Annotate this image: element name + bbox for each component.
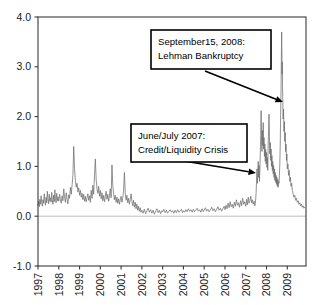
annotation-lehman-line2: Lehman Bankruptcy xyxy=(158,50,244,61)
x-tick-label: 2001 xyxy=(115,273,127,297)
annotation-arrowhead-credit-crisis xyxy=(248,169,256,176)
annotation-credit-crisis: June/July 2007: Credit/Liquidity Crisis xyxy=(131,124,256,175)
x-axis-tick-labels: 1997199819992000200120022003200420052006… xyxy=(32,273,293,297)
x-tick-label: 2004 xyxy=(177,273,189,297)
x-tick-label: 2002 xyxy=(136,273,148,297)
y-tick-label: 0.0 xyxy=(16,210,31,222)
x-tick-label: 2007 xyxy=(240,273,252,297)
annotation-credit-crisis-line2: Credit/Liquidity Crisis xyxy=(138,144,228,155)
annotation-credit-crisis-line1: June/July 2007: xyxy=(138,130,205,141)
x-tick-label: 2000 xyxy=(94,273,106,297)
y-tick-label: 2.0 xyxy=(16,110,31,122)
x-tick-label: 2009 xyxy=(281,273,293,297)
x-tick-label: 2003 xyxy=(156,273,168,297)
chart-container: 4.03.02.01.00.0-1.0 19971998199920002001… xyxy=(0,0,317,305)
annotation-lehman-line1: September15, 2008: xyxy=(158,36,245,47)
y-axis-tick-labels: 4.03.02.01.00.0-1.0 xyxy=(13,11,31,272)
y-tick-label: -1.0 xyxy=(13,260,31,272)
y-tick-label: 3.0 xyxy=(16,60,31,72)
x-tick-label: 2006 xyxy=(219,273,231,297)
x-tick-label: 1999 xyxy=(73,273,85,297)
annotation-arrow-lehman xyxy=(205,71,276,99)
annotation-lehman: September15, 2008: Lehman Bankruptcy xyxy=(151,30,283,102)
x-tick-label: 2008 xyxy=(260,273,272,297)
y-tick-label: 4.0 xyxy=(16,11,31,23)
time-series-chart: 4.03.02.01.00.0-1.0 19971998199920002001… xyxy=(0,0,317,305)
y-tick-label: 1.0 xyxy=(16,160,31,172)
annotation-arrowhead-lehman xyxy=(275,96,283,102)
x-tick-label: 1997 xyxy=(32,273,44,297)
x-tick-label: 1998 xyxy=(53,273,65,297)
x-tick-label: 2005 xyxy=(198,273,210,297)
